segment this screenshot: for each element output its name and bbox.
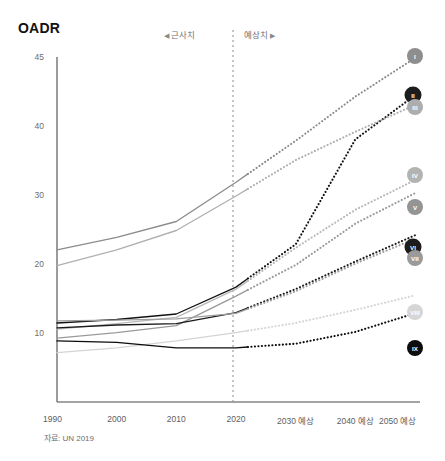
series-line-forecast-III bbox=[248, 105, 415, 189]
badge-label-III: III bbox=[412, 104, 418, 111]
series-end-badges: IIIIIIIVVVIVIIVIIIIX bbox=[405, 48, 424, 356]
series-badge-IV[interactable]: IV bbox=[407, 167, 423, 183]
series-line-forecast-VI bbox=[248, 235, 415, 308]
source-note: 자료: UN 2019 bbox=[44, 432, 94, 443]
series-badge-VIII[interactable]: VIII bbox=[407, 304, 423, 320]
series-line-forecast-IX bbox=[248, 313, 415, 347]
series-line-forecast-I bbox=[248, 58, 415, 174]
axis-lines bbox=[57, 57, 420, 402]
oadr-chart: OADR ◀ 근사치 예상치 ▶ 1020304045 199020002010… bbox=[0, 0, 445, 461]
series-line-forecast-VII bbox=[248, 239, 415, 309]
series-line-historical-VII bbox=[57, 309, 248, 321]
series-line-historical-VI bbox=[57, 308, 248, 328]
series-badge-IX[interactable]: IX bbox=[407, 340, 423, 356]
series-badge-III[interactable]: III bbox=[407, 99, 423, 115]
series-line-forecast-V bbox=[248, 193, 415, 290]
series-lines bbox=[57, 58, 415, 353]
badge-label-I: I bbox=[414, 53, 416, 60]
badge-label-II: II bbox=[411, 92, 415, 99]
badge-label-VIII: VIII bbox=[410, 309, 420, 316]
series-badge-VII[interactable]: VII bbox=[407, 250, 423, 266]
series-badge-V[interactable]: V bbox=[407, 199, 423, 215]
series-line-forecast-II bbox=[248, 95, 415, 278]
series-badge-I[interactable]: I bbox=[407, 48, 423, 64]
series-line-forecast-VIII bbox=[248, 295, 415, 330]
badge-label-IX: IX bbox=[412, 345, 419, 352]
badge-label-IV: IV bbox=[412, 172, 419, 179]
badge-label-VII: VII bbox=[411, 255, 419, 262]
series-line-historical-IX bbox=[57, 341, 248, 348]
plot-area: IIIIIIIVVVIVIIVIIIIX bbox=[0, 0, 445, 461]
badge-label-VI: VI bbox=[410, 244, 416, 251]
series-line-forecast-IV bbox=[248, 180, 415, 281]
